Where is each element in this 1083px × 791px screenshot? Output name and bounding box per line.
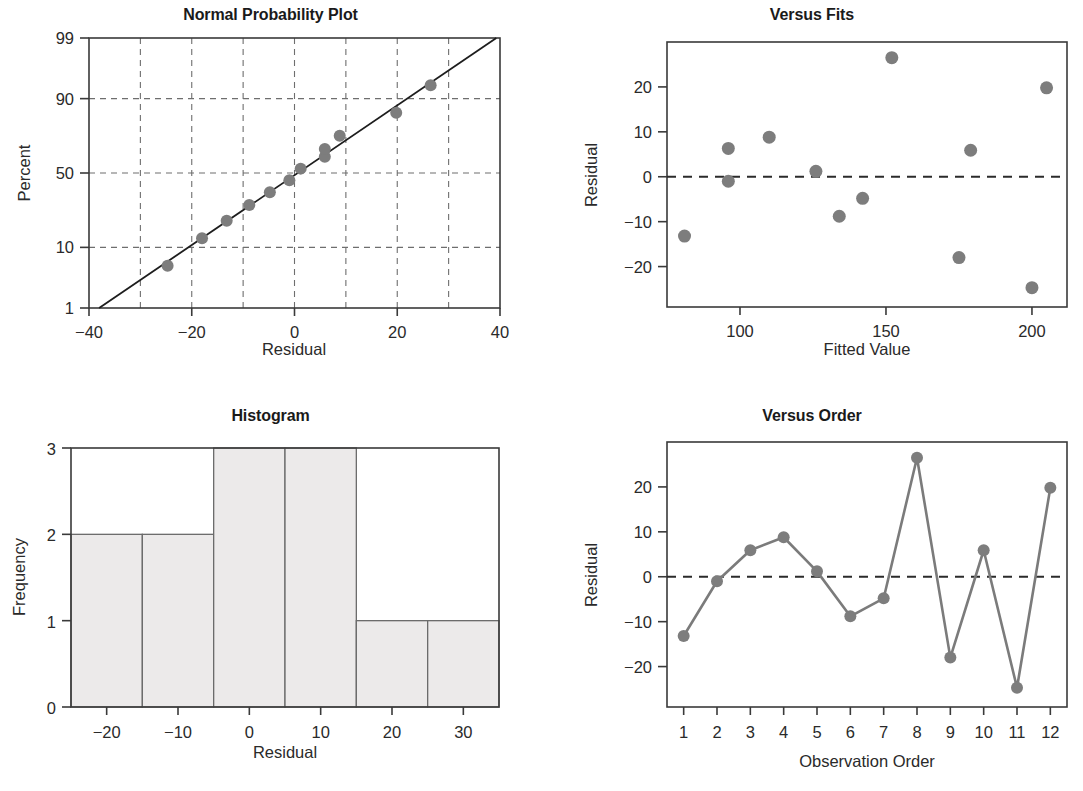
- panel-normal-probability-plot: Normal Probability Plot −40−200204011050…: [0, 0, 541, 395]
- versus-order-x-tick-label: 3: [746, 723, 755, 741]
- versus-order-point: [1011, 682, 1023, 694]
- normal-plot-point: [390, 107, 402, 119]
- histogram-x-tick-label: 20: [383, 723, 401, 741]
- versus-order-point: [978, 544, 990, 556]
- histogram-y-axis-title: Frequency: [10, 537, 28, 616]
- histogram-x-axis-title: Residual: [253, 743, 317, 761]
- histogram-y-tick-label: 2: [47, 526, 56, 544]
- versus-fits-point: [1025, 281, 1038, 294]
- four-in-one-residual-plots: Normal Probability Plot −40−200204011050…: [0, 0, 1083, 791]
- panel-versus-fits: Versus Fits 100150200−20−1001020 Fitted …: [541, 0, 1083, 395]
- normal-plot-y-tick-label: 50: [56, 164, 74, 182]
- versus-fits-point: [678, 230, 691, 243]
- versus-order-x-tick-label: 5: [812, 723, 821, 741]
- panel-histogram: Histogram −20−1001020300123 Residual Fre…: [0, 395, 541, 791]
- normal-plot-x-tick-label: −20: [178, 323, 206, 341]
- normal-plot-svg: −40−2002040110509099 Residual Percent: [0, 0, 541, 395]
- versus-order-x-axis-title: Observation Order: [799, 752, 935, 770]
- versus-order-x-tick-label: 7: [879, 723, 888, 741]
- versus-order-y-tick-label: −20: [624, 658, 652, 676]
- versus-fits-x-tick-label: 150: [872, 322, 900, 340]
- versus-order-svg: 123456789101112−20−1001020 Observation O…: [541, 395, 1083, 791]
- versus-order-point: [778, 531, 790, 543]
- versus-fits-y-tick-label: −20: [624, 258, 652, 276]
- versus-fits-y-tick-label: 20: [634, 78, 652, 96]
- histogram-bar: [142, 534, 213, 707]
- histogram-bar: [214, 448, 285, 707]
- versus-fits-svg: 100150200−20−1001020 Fitted Value Residu…: [541, 0, 1083, 395]
- versus-order-x-tick-label: 1: [679, 723, 688, 741]
- versus-fits-tickmarks: [658, 87, 1032, 315]
- versus-order-x-tick-label: 12: [1041, 723, 1059, 741]
- versus-order-y-tick-label: 0: [643, 568, 652, 586]
- histogram-bar: [356, 621, 427, 707]
- versus-fits-x-tick-label: 200: [1018, 322, 1046, 340]
- normal-plot-point: [264, 186, 276, 198]
- versus-order-tickmarks: [658, 487, 1050, 715]
- histogram-bar: [285, 448, 356, 707]
- versus-order-data-points: [678, 452, 1057, 694]
- versus-fits-tick-labels: 100150200−20−1001020: [624, 78, 1046, 340]
- normal-plot-y-tick-label: 1: [65, 299, 74, 317]
- normal-plot-point: [243, 199, 255, 211]
- normal-plot-point: [221, 215, 233, 227]
- normal-plot-x-tick-label: −40: [75, 323, 103, 341]
- normal-plot-y-tick-label: 90: [56, 90, 74, 108]
- normal-plot-y-tick-label: 99: [56, 29, 74, 47]
- histogram-x-tick-label: 10: [311, 723, 329, 741]
- histogram-x-tick-label: 30: [454, 723, 472, 741]
- versus-order-point: [878, 592, 890, 604]
- normal-plot-data-points: [162, 79, 437, 272]
- versus-fits-y-tick-label: 10: [634, 123, 652, 141]
- histogram-x-tick-label: −20: [93, 723, 121, 741]
- versus-order-x-tick-label: 6: [846, 723, 855, 741]
- versus-order-x-tick-label: 2: [712, 723, 721, 741]
- versus-order-series-line: [684, 458, 1051, 688]
- versus-fits-point: [885, 51, 898, 64]
- versus-order-point: [944, 652, 956, 664]
- normal-plot-point: [162, 260, 174, 272]
- normal-plot-point: [425, 79, 437, 91]
- normal-plot-point: [283, 174, 295, 186]
- versus-fits-point: [833, 210, 846, 223]
- normal-plot-point: [196, 232, 208, 244]
- normal-plot-y-tick-label: 10: [56, 238, 74, 256]
- versus-fits-x-axis-title: Fitted Value: [824, 340, 911, 358]
- versus-order-point: [911, 452, 923, 464]
- histogram-x-tick-label: −10: [164, 723, 192, 741]
- versus-fits-point: [952, 251, 965, 264]
- versus-fits-point: [1040, 81, 1053, 94]
- versus-fits-x-tick-label: 100: [726, 322, 754, 340]
- histogram-bar: [71, 534, 142, 707]
- versus-fits-point: [809, 165, 822, 178]
- normal-plot-y-axis-title: Percent: [15, 144, 33, 201]
- versus-order-point: [744, 544, 756, 556]
- versus-order-point: [844, 610, 856, 622]
- normal-plot-x-tick-label: 40: [491, 323, 509, 341]
- versus-order-point: [811, 565, 823, 577]
- versus-fits-frame: [667, 42, 1067, 307]
- normal-plot-gridlines: [89, 38, 500, 308]
- normal-plot-point: [319, 143, 331, 155]
- normal-plot-point: [295, 163, 307, 175]
- versus-fits-y-tick-label: 0: [643, 168, 652, 186]
- panel-versus-order: Versus Order 123456789101112−20−1001020 …: [541, 395, 1083, 791]
- histogram-bar: [428, 621, 499, 707]
- normal-plot-x-tick-label: 20: [388, 323, 406, 341]
- normal-plot-x-tick-label: 0: [290, 323, 299, 341]
- versus-fits-y-axis-title: Residual: [582, 143, 600, 207]
- versus-fits-point: [763, 131, 776, 144]
- versus-fits-point: [964, 144, 977, 157]
- versus-order-frame: [667, 442, 1067, 707]
- versus-fits-point: [856, 192, 869, 205]
- histogram-svg: −20−1001020300123 Residual Frequency: [0, 395, 541, 791]
- versus-fits-point: [722, 142, 735, 155]
- versus-order-point: [711, 575, 723, 587]
- versus-order-x-tick-label: 11: [1008, 723, 1025, 741]
- versus-order-x-tick-label: 8: [912, 723, 921, 741]
- versus-fits-y-tick-label: −10: [624, 213, 652, 231]
- normal-plot-point: [334, 130, 346, 142]
- histogram-y-tick-label: 0: [47, 699, 56, 717]
- versus-order-y-tick-label: 20: [634, 478, 652, 496]
- histogram-y-tick-label: 3: [47, 440, 56, 458]
